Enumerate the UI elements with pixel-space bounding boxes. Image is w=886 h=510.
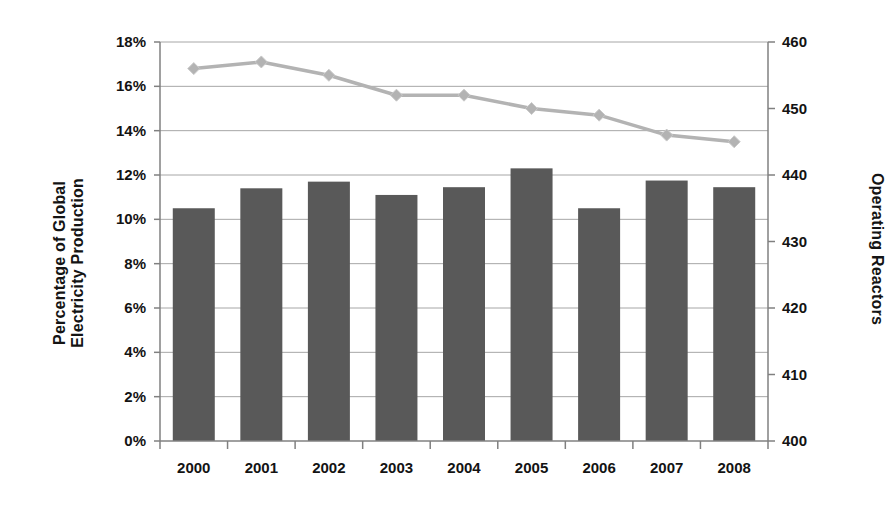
marker-2000[interactable] (188, 63, 200, 75)
y-axis-left-tick-label: 2% (88, 388, 146, 405)
x-axis-tick-label-2005: 2005 (497, 459, 567, 476)
marker-2005[interactable] (526, 103, 538, 115)
y-axis-right-tick-label: 410 (782, 366, 840, 383)
x-axis-tick-label-2004: 2004 (429, 459, 499, 476)
y-axis-right-tick-label: 400 (782, 432, 840, 449)
bar-2003[interactable] (375, 195, 417, 441)
y-axis-right-tick-label: 430 (782, 233, 840, 250)
y-axis-left-tick-label: 4% (88, 343, 146, 360)
bar-2002[interactable] (308, 182, 350, 441)
y-axis-left-tick-label: 0% (88, 432, 146, 449)
y-axis-right-tick-label: 450 (782, 100, 840, 117)
bar-2004[interactable] (443, 187, 485, 441)
marker-2002[interactable] (323, 69, 335, 81)
bar-2007[interactable] (646, 181, 688, 441)
bar-2001[interactable] (240, 188, 282, 441)
y-axis-left-tick-label: 16% (88, 77, 146, 94)
y-axis-left-tick-label: 6% (88, 299, 146, 316)
x-axis-tick-label-2001: 2001 (226, 459, 296, 476)
bar-2005[interactable] (511, 168, 553, 441)
y-axis-right-tick-label: 460 (782, 33, 840, 50)
bar-2006[interactable] (578, 208, 620, 441)
marker-2001[interactable] (255, 56, 267, 68)
bar-2000[interactable] (173, 208, 215, 441)
bar-2008[interactable] (713, 187, 755, 441)
x-axis-tick-label-2002: 2002 (294, 459, 364, 476)
marker-2003[interactable] (390, 89, 402, 101)
y-axis-left-tick-label: 10% (88, 210, 146, 227)
x-axis-tick-label-2007: 2007 (632, 459, 702, 476)
x-axis-tick-label-2008: 2008 (699, 459, 769, 476)
chart-container: Percentage of Global Electricity Product… (0, 0, 886, 510)
marker-2004[interactable] (458, 89, 470, 101)
marker-2008[interactable] (728, 136, 740, 148)
marker-2006[interactable] (593, 109, 605, 121)
y-axis-right-tick-label: 420 (782, 299, 840, 316)
x-axis-tick-label-2000: 2000 (159, 459, 229, 476)
x-axis-tick-label-2003: 2003 (361, 459, 431, 476)
y-axis-right-tick-label: 440 (782, 166, 840, 183)
y-axis-left-tick-label: 14% (88, 122, 146, 139)
x-axis-tick-label-2006: 2006 (564, 459, 634, 476)
y-axis-left-tick-label: 12% (88, 166, 146, 183)
y-axis-left-tick-label: 18% (88, 33, 146, 50)
y-axis-left-tick-label: 8% (88, 255, 146, 272)
